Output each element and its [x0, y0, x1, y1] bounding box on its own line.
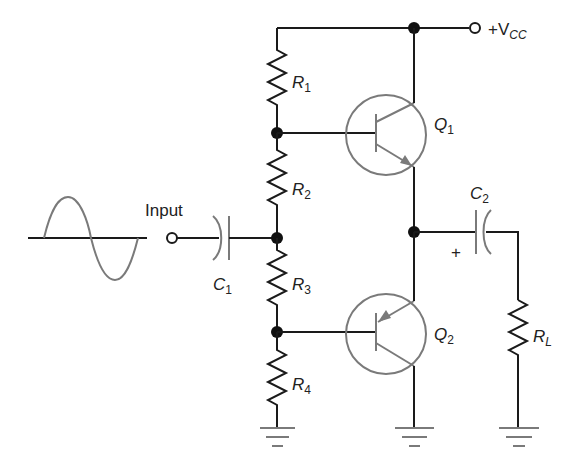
resistor-r1 [268, 45, 286, 133]
resistor-r4 [268, 332, 286, 427]
resistor-r2 [268, 133, 286, 238]
sine-wave-icon [28, 197, 147, 280]
r1-label: R1 [292, 73, 311, 95]
transistor-q2-pnp [277, 294, 426, 374]
ground-icon [395, 428, 434, 446]
circuit-diagram: Input C1 +VCC R1 R2 R3 R4 [0, 0, 567, 469]
c1-label: C1 [213, 275, 232, 297]
resistor-r3 [268, 238, 286, 332]
vcc-terminal [470, 23, 480, 33]
ground-icon [260, 428, 295, 446]
input-label: Input [145, 201, 183, 220]
r2-label: R2 [292, 180, 311, 202]
q1-label: Q1 [434, 115, 454, 137]
resistor-rl [509, 300, 527, 427]
c2-label: C2 [470, 184, 489, 206]
q2-label: Q2 [434, 325, 454, 347]
vcc-label: +VCC [488, 20, 527, 42]
r4-label: R4 [292, 375, 311, 397]
input-terminal [167, 233, 177, 243]
rl-label: RL [533, 327, 552, 349]
transistor-q1-npn [277, 95, 426, 175]
c2-plus-sign: + [451, 243, 461, 262]
r3-label: R3 [292, 275, 311, 297]
ground-icon [499, 428, 539, 446]
